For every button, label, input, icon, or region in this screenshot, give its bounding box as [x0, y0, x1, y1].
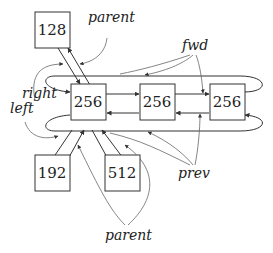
svg-text:128: 128: [38, 21, 67, 39]
svg-text:256: 256: [74, 93, 103, 111]
svg-text:256: 256: [213, 93, 242, 111]
node-256-dup2: 256: [210, 84, 245, 120]
label-left: left: [10, 100, 34, 116]
svg-text:512: 512: [108, 164, 137, 182]
node-192: 192: [35, 155, 70, 191]
fwd-pointer-2: [196, 55, 203, 93]
prev-pointer-1: [148, 132, 193, 165]
edge-center-to-root: [68, 48, 90, 85]
node-256-dup1: 256: [140, 84, 175, 120]
label-parent-bottom: parent: [105, 227, 152, 243]
skip-list-tree-diagram: 128 256 256 256 192 512 parent fwd right…: [0, 0, 273, 253]
label-right: right: [22, 85, 57, 101]
svg-text:192: 192: [38, 164, 67, 182]
fwd-pointer-3: [120, 55, 190, 74]
label-parent-top: parent: [88, 9, 135, 25]
label-fwd: fwd: [181, 37, 208, 53]
node-128: 128: [35, 12, 70, 48]
label-prev: prev: [178, 165, 210, 181]
parent-top-pointer: [80, 38, 107, 64]
fwd-pointer-1: [145, 55, 193, 75]
prev-pointer-2: [195, 114, 200, 165]
left-pointer: [25, 122, 58, 138]
svg-text:256: 256: [143, 93, 172, 111]
node-256-center: 256: [71, 84, 106, 120]
edge-root-to-center: [58, 48, 80, 84]
node-512: 512: [105, 155, 140, 191]
